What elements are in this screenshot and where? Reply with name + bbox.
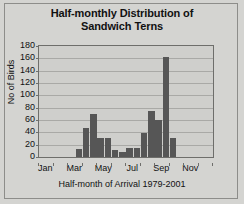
bar [126,148,132,157]
chart-title: Half-monthly Distribution of Sandwich Te… [18,7,226,33]
x-tick-mark [169,163,170,166]
bar [90,114,96,157]
x-tick-mark [111,163,112,166]
y-tick-mark [36,120,39,121]
x-tick-label: Sep [146,163,176,173]
y-tick-mark [36,83,39,84]
y-tick-mark [36,108,39,109]
x-tick-mark [198,163,199,166]
x-tick-mark [125,163,126,166]
x-axis-title: Half-month of Arrival 1979-2001 [14,179,230,189]
y-tick-label: 100 [8,90,35,99]
bar [134,148,140,157]
y-tick-label: 0 [8,152,35,161]
x-tick-mark [53,163,54,166]
y-tick-mark [36,71,39,72]
y-axis-tick-labels: 180160140120100806040200 [8,40,35,163]
bar-series [39,46,213,157]
bar [105,138,111,157]
bar [112,150,118,157]
chart-title-line-2: Sandwich Terns [18,20,226,33]
x-tick-label: Jan [30,163,60,173]
y-tick-mark [36,58,39,59]
y-tick-mark [36,46,39,47]
y-tick-mark [36,95,39,96]
y-tick-label: 60 [8,115,35,124]
y-tick-label: 140 [8,66,35,75]
y-tick-label: 40 [8,127,35,136]
y-tick-label: 160 [8,53,35,62]
bar [148,111,154,157]
x-tick-label: Jul [117,163,147,173]
y-tick-label: 20 [8,140,35,149]
y-tick-label: 120 [8,78,35,87]
x-tick-mark [82,163,83,166]
bar [76,149,82,157]
bar [97,138,103,157]
x-tick-mark [38,163,39,166]
bar [155,120,161,157]
bar [170,138,176,157]
x-tick-label: May [88,163,118,173]
bar [119,152,125,157]
x-tick-label: Nov [175,163,205,173]
x-tick-mark [67,163,68,166]
x-tick-mark [183,163,184,166]
chart-figure: Half-monthly Distribution of Sandwich Te… [0,0,244,204]
bar [83,128,89,157]
bar [141,133,147,157]
plot-area [38,45,214,158]
y-tick-mark [36,157,39,158]
y-tick-mark [36,132,39,133]
x-tick-mark [212,163,213,166]
x-tick-mark [154,163,155,166]
y-tick-label: 180 [8,41,35,50]
x-axis-tick-labels: JanMarMayJulSepNov [38,163,214,175]
bar [163,57,169,157]
x-tick-mark [96,163,97,166]
x-tick-mark [140,163,141,166]
x-tick-label: Mar [59,163,89,173]
y-tick-label: 80 [8,103,35,112]
y-tick-mark [36,145,39,146]
chart-title-line-1: Half-monthly Distribution of [18,7,226,20]
